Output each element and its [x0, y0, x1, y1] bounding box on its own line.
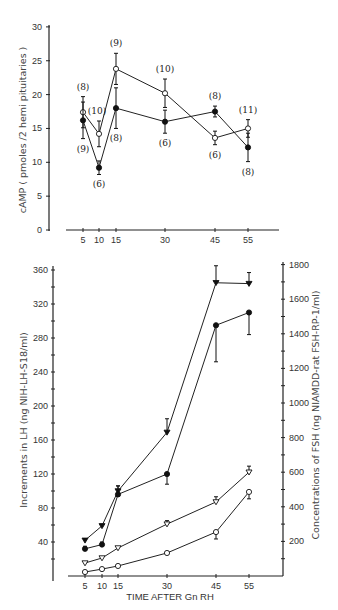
- filled-marker: [162, 119, 167, 124]
- series-line: [85, 492, 249, 572]
- x-tick-label: 10: [94, 235, 104, 245]
- lh-tick-label: 80: [38, 503, 48, 513]
- n-label: (8): [242, 167, 255, 177]
- filled-marker: [164, 471, 169, 476]
- fsh-tick-label: 1600: [289, 294, 309, 304]
- y-tick-label: 30: [32, 22, 42, 32]
- n-label: (6): [209, 150, 222, 160]
- open-marker: [96, 131, 101, 136]
- n-label: (6): [93, 179, 106, 189]
- open-marker: [164, 522, 170, 527]
- x-tick-label: 15: [111, 235, 121, 245]
- open-marker: [212, 135, 217, 140]
- filled-marker: [246, 310, 251, 315]
- fsh-y-ticks: 20040060080010001200140016001800: [281, 260, 309, 559]
- fsh-tick-label: 1200: [289, 363, 309, 373]
- camp-series: (8)(10)(9)(10)(6)(11)(9)(6)(8)(6)(8)(8): [77, 38, 258, 189]
- filled-marker: [212, 109, 217, 114]
- series-line: [85, 283, 249, 541]
- time-x-axis-label: TIME AFTER Gn RH: [126, 591, 214, 602]
- x-tick-label: 55: [243, 235, 253, 245]
- y-tick-label: 20: [32, 90, 42, 100]
- open-marker: [115, 546, 121, 551]
- lh-tick-label: 320: [33, 299, 48, 309]
- camp-y-axis-label: cAMP ( pmoles /2 hemi pituitaries ): [17, 47, 28, 214]
- open-marker: [213, 500, 219, 505]
- filled-marker: [113, 106, 118, 111]
- y-tick-label: 15: [32, 123, 42, 133]
- open-marker: [246, 489, 251, 494]
- filled-marker: [96, 165, 101, 170]
- x-tick-label: 10: [97, 581, 107, 591]
- y-tick-label: 0: [37, 225, 42, 235]
- open-marker: [115, 563, 120, 568]
- lh-y-ticks: 4080120160200240280320360: [33, 265, 55, 559]
- x-tick-label: 45: [210, 235, 220, 245]
- x-tick-label: 5: [80, 235, 85, 245]
- lh-fsh-series: [82, 266, 252, 575]
- y-tick-label: 25: [32, 56, 42, 66]
- fsh-tick-label: 1000: [289, 398, 309, 408]
- x-tick-label: 5: [82, 581, 87, 591]
- lh-tick-label: 240: [33, 367, 48, 377]
- open-marker: [164, 550, 169, 555]
- open-marker: [82, 561, 88, 566]
- open-marker: [213, 529, 218, 534]
- x-tick-label: 30: [162, 581, 172, 591]
- filled-marker: [115, 492, 120, 497]
- open-marker: [162, 91, 167, 96]
- n-label: (11): [239, 105, 257, 115]
- lh-tick-label: 120: [33, 469, 48, 479]
- fsh-tick-label: 400: [289, 502, 304, 512]
- filled-marker: [82, 538, 88, 543]
- lh-tick-label: 360: [33, 265, 48, 275]
- x-tick-label: 45: [211, 581, 221, 591]
- camp-y-ticks: 051015202530: [32, 22, 50, 235]
- y-tick-label: 5: [37, 191, 42, 201]
- n-label: (8): [110, 133, 123, 143]
- lh-tick-label: 280: [33, 333, 48, 343]
- fsh-tick-label: 200: [289, 536, 304, 546]
- x-tick-label: 30: [160, 235, 170, 245]
- n-label: (6): [159, 138, 172, 148]
- x-tick-label: 15: [113, 581, 123, 591]
- fsh-tick-label: 1800: [289, 260, 309, 270]
- filled-marker: [245, 145, 250, 150]
- filled-marker: [213, 323, 218, 328]
- filled-marker: [80, 118, 85, 123]
- n-label: (8): [209, 91, 222, 101]
- open-marker: [245, 126, 250, 131]
- n-label: (8): [77, 82, 90, 92]
- n-label: (10): [88, 106, 106, 116]
- lh-y-axis-label: Increments in LH (ng NIH-LH-S18/ml): [18, 332, 29, 508]
- fsh-y-axis-label: Concentrations of FSH (ng NIAMDD-rat FSH…: [310, 290, 321, 539]
- lh-tick-label: 40: [38, 537, 48, 547]
- lh-tick-label: 160: [33, 435, 48, 445]
- filled-marker: [99, 542, 104, 547]
- n-label: (9): [110, 38, 123, 48]
- figure: 051015202530 51015304555 cAMP ( pmoles /…: [0, 0, 338, 610]
- open-marker: [99, 566, 104, 571]
- n-label: (9): [77, 144, 90, 154]
- open-marker: [82, 569, 87, 574]
- series-line: [85, 472, 249, 563]
- fsh-tick-label: 1400: [289, 329, 309, 339]
- filled-marker: [82, 546, 87, 551]
- fsh-tick-label: 600: [289, 467, 304, 477]
- open-marker: [113, 66, 118, 71]
- y-tick-label: 10: [32, 157, 42, 167]
- fsh-tick-label: 800: [289, 433, 304, 443]
- n-label: (10): [156, 64, 174, 74]
- lh-tick-label: 200: [33, 401, 48, 411]
- x-tick-label: 55: [244, 581, 254, 591]
- camp-chart: 051015202530 51015304555 cAMP ( pmoles /…: [17, 22, 279, 245]
- lh-fsh-chart: 4080120160200240280320360 20040060080010…: [18, 260, 321, 602]
